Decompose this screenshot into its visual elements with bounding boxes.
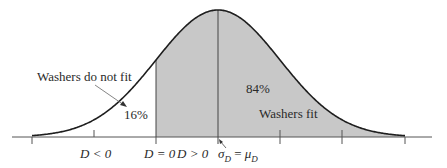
washers-do-not-fit-label: Washers do not fit: [37, 70, 132, 83]
mu-subscript: D: [251, 154, 258, 164]
sigma-equals-mu-label: σD = μD: [218, 147, 258, 164]
d-less-than-zero-label: D < 0: [80, 147, 111, 160]
not-fit-percent-label: 16%: [124, 108, 148, 121]
d-greater-than-zero-label: D > 0: [177, 147, 208, 160]
equals-sign: =: [231, 146, 245, 161]
d-equals-zero-label: D = 0: [144, 147, 175, 160]
washers-fit-label: Washers fit: [259, 107, 318, 120]
fit-percent-label: 84%: [246, 82, 270, 95]
pointer-arrow: [95, 85, 127, 107]
normal-distribution-diagram: [0, 0, 447, 168]
